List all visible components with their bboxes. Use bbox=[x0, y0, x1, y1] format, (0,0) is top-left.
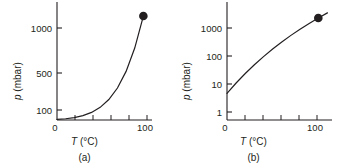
y-axis-label-a: p (mbar) bbox=[12, 62, 23, 100]
y-axis-label-b: p (mbar) bbox=[181, 62, 192, 100]
x-tick-label-0-b: 0 bbox=[218, 123, 232, 133]
panel-b: 1000 100 10 1 0 100 p (mbar) T (°C) (b) bbox=[169, 0, 338, 166]
y-tick-label-1000-a: 1000 bbox=[16, 24, 52, 34]
x-axis-label-b: T (°C) bbox=[169, 136, 338, 147]
y-axis-unit-a: (mbar) bbox=[12, 62, 23, 91]
x-axis-symbol-b: T bbox=[240, 136, 246, 147]
panel-a: 1000 500 100 0 100 p (mbar) T (°C) (a) bbox=[0, 0, 169, 166]
y-tick-label-100-a: 100 bbox=[16, 106, 52, 116]
y-tick-label-100-b: 100 bbox=[185, 52, 222, 62]
y-tick-label-1-b: 1 bbox=[185, 108, 222, 118]
boiling-point-marker-b bbox=[314, 14, 323, 23]
x-axis-symbol-a: T bbox=[71, 136, 77, 147]
panel-caption-a: (a) bbox=[0, 152, 169, 163]
y-tick-label-1000-b: 1000 bbox=[185, 24, 222, 34]
x-axis-unit-b: (°C) bbox=[249, 136, 267, 147]
x-axis-label-a: T (°C) bbox=[0, 136, 169, 147]
panel-caption-b: (b) bbox=[169, 152, 338, 163]
y-axis-symbol-b: p bbox=[181, 94, 192, 100]
x-tick-label-0-a: 0 bbox=[48, 123, 62, 133]
vapour-pressure-figure: 1000 500 100 0 100 p (mbar) T (°C) (a) bbox=[0, 0, 338, 166]
y-axis-unit-b: (mbar) bbox=[181, 62, 192, 91]
boiling-point-marker-a bbox=[139, 12, 148, 21]
vapour-pressure-curve-b bbox=[227, 13, 327, 93]
x-tick-label-100-a: 100 bbox=[133, 123, 157, 133]
x-axis-unit-a: (°C) bbox=[80, 136, 98, 147]
y-axis-symbol-a: p bbox=[12, 94, 23, 100]
vapour-pressure-curve-a-main bbox=[57, 16, 143, 119]
x-tick-label-100-b: 100 bbox=[303, 123, 327, 133]
